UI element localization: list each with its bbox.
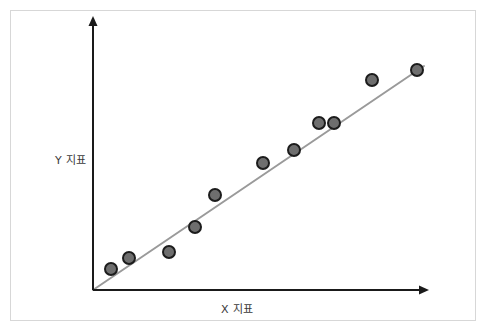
data-point-marker xyxy=(313,117,325,129)
data-point-marker xyxy=(123,252,135,264)
data-point-marker xyxy=(209,189,221,201)
y-axis-arrowhead-icon xyxy=(89,16,98,26)
data-point-marker xyxy=(105,263,117,275)
x-axis-label: X 지표 xyxy=(221,300,253,316)
data-point-marker xyxy=(328,117,340,129)
data-point-marker xyxy=(366,74,378,86)
data-point-marker xyxy=(189,221,201,233)
trend-line xyxy=(93,66,424,290)
data-point-marker xyxy=(257,157,269,169)
data-point-marker xyxy=(411,64,423,76)
scatter-plot-figure: Y 지표 X 지표 xyxy=(0,0,487,333)
data-point-marker xyxy=(288,144,300,156)
x-axis-arrowhead-icon xyxy=(419,286,429,295)
y-axis-label: Y 지표 xyxy=(55,151,86,167)
data-point-marker xyxy=(163,246,175,258)
data-point-group xyxy=(105,64,423,275)
